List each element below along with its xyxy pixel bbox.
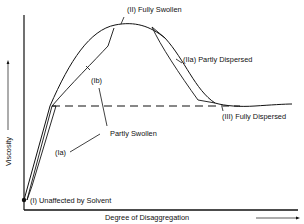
leader-fully-swollen [121, 17, 124, 24]
label-ia: (Ia) [55, 148, 66, 157]
label-fully-dispersed: (III) Fully Dispersed [222, 112, 286, 121]
label-partly-dispersed: (IIa) Partly Dispersed [183, 55, 252, 64]
x-axis-label: Degree of Disaggregation [105, 213, 189, 222]
branch-ia-curve [27, 106, 56, 200]
leader-fully-dispersed [222, 107, 223, 111]
leader-partly-swollen-1 [99, 88, 107, 126]
label-fully-swollen: (II) Fully Swollen [127, 5, 182, 14]
label-ib: (Ib) [91, 76, 102, 85]
y-axis-label: Viscosity [4, 137, 13, 166]
branch-ib-curve [52, 28, 114, 106]
leader-partly-swollen-2 [70, 134, 100, 152]
x-arrowhead-icon [296, 217, 300, 220]
label-partly-swollen: Partly Swollen [110, 129, 157, 138]
y-arrowhead-icon [7, 60, 10, 64]
origin-point-icon [22, 198, 26, 202]
label-unaffected: (I) Unaffected by Solvent [30, 196, 111, 205]
branch-iia-curve [152, 27, 215, 103]
